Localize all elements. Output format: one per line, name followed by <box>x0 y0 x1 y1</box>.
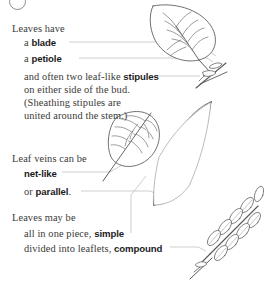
compound-term: compound <box>114 243 162 254</box>
label-stipules: and often two leaf-like stipules <box>24 70 159 83</box>
label-compound: divided into leaflets, compound <box>24 242 162 255</box>
stipules-term: stipules <box>123 71 158 82</box>
label-petiole: a petiole <box>24 52 62 65</box>
text-bud-line: on either side of the bud. <box>24 83 130 96</box>
simple-prefix: all in one piece, <box>24 228 94 239</box>
leaf-anatomy-diagram: Leaves have a blade a petiole and often … <box>0 0 265 281</box>
text-sheathing-line-1: (Sheathing stipules are <box>24 96 121 109</box>
parallel-prefix: or <box>24 186 36 197</box>
label-net-like: net-like <box>24 167 57 180</box>
compound-prefix: divided into leaflets, <box>24 243 114 254</box>
simple-leaf-blade-petiole-stipules-illustration <box>150 5 227 88</box>
petiole-term: petiole <box>31 53 61 64</box>
intro-leaf-veins: Leaf veins can be <box>12 152 87 165</box>
stipules-prefix: and often two leaf-like <box>24 71 123 82</box>
intro-leaves-may-be: Leaves may be <box>12 211 76 224</box>
leader-line-compound <box>170 247 206 251</box>
label-blade: a blade <box>24 36 56 49</box>
label-simple: all in one piece, simple <box>24 227 124 240</box>
parallel-term: parallel <box>36 186 69 197</box>
simple-term: simple <box>94 228 124 239</box>
leader-line-parallel <box>81 191 163 196</box>
text-sheathing-line-2: united around the stem.) <box>24 109 127 122</box>
parallel-suffix: . <box>68 186 71 197</box>
label-parallel: or parallel. <box>24 185 71 198</box>
pinnately-compound-leaf-illustration <box>190 185 265 279</box>
blade-term: blade <box>31 37 56 48</box>
intro-leaves-have: Leaves have <box>12 22 65 35</box>
parallel-veined-leaf-illustration <box>154 102 211 205</box>
leader-line-simple <box>131 176 146 233</box>
